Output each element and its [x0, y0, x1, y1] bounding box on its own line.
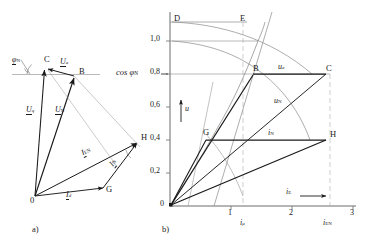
vector-label-a-un: UN — [55, 106, 64, 114]
point-label-b-h: H — [330, 130, 336, 139]
chart-vector-0h — [171, 140, 326, 205]
point-label-b-d: D — [174, 14, 180, 23]
x-axis-label-ie: iE — [286, 188, 291, 196]
point-label-a-c: C — [44, 55, 50, 64]
vector-label-a-id: Id — [66, 191, 71, 199]
y-tick-label-0: 0 — [160, 200, 164, 208]
point-label-a-b: B — [79, 67, 85, 76]
x-tick-label-3: 3 — [350, 209, 354, 217]
panel-a-phasor-diagram — [12, 60, 140, 196]
point-label-b-g: G — [203, 128, 209, 137]
vector-uq-line — [35, 70, 45, 196]
y-tick-label-10: 1,0 — [150, 35, 160, 43]
point-label-b-e: E — [240, 14, 245, 23]
vector-label-a-ua: Ua — [60, 58, 68, 66]
arc-upper-from-d — [172, 22, 312, 74]
point-label-a-origin: 0 — [30, 196, 34, 205]
point-label-a-g: G — [106, 185, 112, 194]
cos-phi-n-label: cos φN — [116, 68, 138, 77]
figure-canvas — [0, 0, 370, 252]
y-tick-label-04: 0,4 — [150, 134, 160, 142]
chart-vector-0g — [171, 140, 206, 205]
y-tick-label-02: 0,2 — [150, 167, 160, 175]
x-tick-label-2: 2 — [289, 209, 293, 217]
vector-in-line — [103, 143, 137, 188]
vector-label-b-in: iN — [268, 129, 274, 137]
angle-label-phi-n: φN — [12, 56, 20, 64]
panel-caption-a: a) — [32, 225, 39, 234]
point-label-b-b: B — [253, 64, 259, 73]
vector-label-b-un: uN — [274, 97, 282, 105]
construction-line-bh — [74, 76, 140, 147]
panel-b-chart — [161, 12, 356, 210]
vector-ua-line — [48, 69, 74, 76]
vector-label-a-uq: Uq — [26, 106, 34, 114]
point-label-a-h: H — [141, 133, 147, 142]
panel-caption-b: b) — [162, 225, 169, 234]
angle-leg-line — [21, 60, 30, 74]
y-tick-label-06: 0,6 — [150, 101, 160, 109]
y-tick-label-08: 0,8 — [150, 68, 160, 76]
vector-label-b-ua: ua — [278, 63, 284, 71]
origin-marker — [169, 203, 173, 207]
y-axis-label-u: u — [185, 105, 189, 113]
arc-through-g — [206, 134, 243, 196]
arc-lower-from-10 — [172, 41, 310, 140]
x-tick-label-1: 1 — [228, 209, 232, 217]
x-marker-label-imu: iμ — [240, 219, 245, 227]
point-label-b-c: C — [326, 64, 332, 73]
y-tick-marks — [166, 41, 170, 173]
x-marker-label-ien: iEN — [323, 219, 332, 227]
